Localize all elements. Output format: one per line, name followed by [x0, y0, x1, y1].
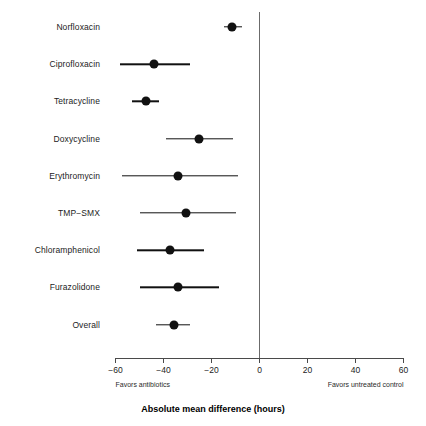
row-label-chloramphenicol: Chloramphenicol	[35, 245, 100, 255]
point-estimate-marker	[194, 134, 203, 143]
x-axis-tick-label: 0	[257, 365, 262, 375]
x-axis-tick	[163, 358, 164, 363]
row-label-tetracycline: Tetracycline	[54, 96, 100, 106]
row-label-overall: Overall	[72, 320, 100, 330]
point-estimate-marker	[165, 246, 174, 255]
point-estimate-marker	[174, 171, 183, 180]
favors-antibiotics-label: Favors antibiotics	[116, 381, 170, 388]
x-axis-tick-label: −60	[108, 365, 122, 375]
x-axis-tick	[259, 358, 260, 363]
x-axis-tick	[403, 358, 404, 363]
x-axis-title: Absolute mean difference (hours)	[0, 404, 426, 414]
point-estimate-marker	[169, 320, 178, 329]
x-axis-tick	[115, 358, 116, 363]
forest-plot: NorfloxacinCiprofloxacinTetracyclineDoxy…	[0, 0, 426, 426]
point-estimate-marker	[141, 97, 150, 106]
x-axis-tick-label: −40	[156, 365, 170, 375]
x-axis-tick	[355, 358, 356, 363]
favors-untreated-control-label: Favors untreated control	[328, 381, 404, 388]
row-label-doxycycline: Doxycycline	[54, 134, 100, 144]
x-axis-tick	[211, 358, 212, 363]
point-estimate-marker	[181, 209, 190, 218]
row-label-furazolidone: Furazolidone	[50, 282, 100, 292]
row-label-norfloxacin: Norfloxacin	[56, 22, 100, 32]
point-estimate-marker	[174, 283, 183, 292]
x-axis-tick-label: 60	[399, 365, 408, 375]
point-estimate-marker	[150, 60, 159, 69]
x-axis-tick-label: 20	[303, 365, 312, 375]
zero-reference-line	[259, 12, 260, 358]
x-axis-tick-label: 40	[351, 365, 360, 375]
point-estimate-marker	[227, 23, 236, 32]
x-axis-tick	[307, 358, 308, 363]
x-axis-tick-label: −20	[204, 365, 218, 375]
row-label-ciprofloxacin: Ciprofloxacin	[50, 59, 100, 69]
row-label-erythromycin: Erythromycin	[49, 171, 100, 181]
row-label-tmp-smx: TMP−SMX	[58, 208, 100, 218]
